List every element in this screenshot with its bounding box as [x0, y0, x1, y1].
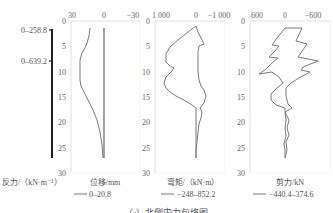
shear-positive-curve	[259, 28, 286, 158]
reaction-annotation-2: 0–639.2	[21, 57, 47, 66]
svg-text:5: 5	[146, 42, 150, 51]
moment-positive-curve	[164, 26, 196, 158]
svg-text:30: 30	[142, 169, 150, 178]
svg-text:20: 20	[58, 118, 66, 127]
svg-text:20: 20	[237, 118, 245, 127]
reaction-xlabel: 反力/（kN·m⁻¹）	[2, 177, 62, 187]
svg-text:10: 10	[58, 68, 66, 77]
displacement-panel: 30 0 −30 0 5 10 15 20 25 30 位移/mm 0–20.8	[58, 11, 140, 199]
svg-text:15: 15	[237, 93, 245, 102]
shear-xlabel: 剪力/kN	[276, 177, 304, 187]
reaction-panel: 0–258.8 0–639.2 反力/（kN·m⁻¹）	[2, 26, 62, 187]
figure-caption: （a）北侧内力包络图	[124, 207, 209, 213]
svg-text:30: 30	[58, 169, 66, 178]
x-tick: −600	[305, 11, 322, 20]
envelope-chart: 0–258.8 0–639.2 反力/（kN·m⁻¹） 30 0 −30 0 5…	[0, 0, 333, 213]
svg-text:10: 10	[237, 68, 245, 77]
svg-text:20: 20	[142, 118, 150, 127]
svg-text:5: 5	[241, 42, 245, 51]
svg-text:0: 0	[62, 17, 66, 26]
moment-panel: 1 000 0 −1 000 0 5 10 15 20 25 30 弯矩/（kN…	[142, 11, 230, 199]
x-tick: −30	[127, 11, 140, 20]
svg-text:25: 25	[237, 144, 245, 153]
svg-text:25: 25	[58, 144, 66, 153]
svg-text:15: 15	[58, 93, 66, 102]
x-tick: 600	[251, 11, 263, 20]
svg-text:0: 0	[146, 17, 150, 26]
x-tick: 0	[194, 11, 198, 20]
svg-text:15: 15	[142, 93, 150, 102]
svg-text:30: 30	[237, 169, 245, 178]
x-tick: 1 000	[152, 11, 170, 20]
displacement-xlabel: 位移/mm	[90, 177, 121, 187]
x-tick: 0	[102, 11, 106, 20]
svg-text:10: 10	[142, 68, 150, 77]
reaction-annotation-1: 0–258.8	[21, 26, 47, 35]
svg-text:25: 25	[142, 144, 150, 153]
x-tick: 30	[68, 11, 76, 20]
shear-legend: −440.4–374.6	[269, 190, 314, 199]
shear-negative-curve	[285, 28, 318, 158]
x-tick: 0	[283, 11, 287, 20]
moment-legend: −248–852.2	[177, 190, 216, 199]
displacement-max-curve	[80, 28, 103, 158]
moment-xlabel: 弯矩/（kN·m）	[167, 177, 220, 187]
svg-text:0: 0	[241, 17, 245, 26]
svg-text:5: 5	[62, 42, 66, 51]
x-tick: −1 000	[208, 11, 231, 20]
shear-panel: 600 0 −600 0 5 10 15 20 25 30 剪力/kN −440…	[237, 11, 330, 199]
displacement-legend: 0–20.8	[89, 190, 111, 199]
moment-negative-curve	[196, 26, 206, 158]
